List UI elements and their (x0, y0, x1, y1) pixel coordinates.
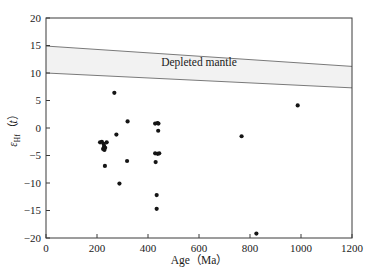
y-tick-label: −20 (24, 232, 42, 244)
data-point (239, 134, 243, 138)
x-tick-label: 1200 (341, 242, 364, 254)
svg-text:εHf（t）: εHf（t） (7, 109, 22, 147)
data-point (103, 164, 107, 168)
y-axis-paren-close: ） (7, 109, 19, 120)
x-tick-label: 400 (140, 242, 157, 254)
data-point (126, 119, 130, 123)
y-tick-label: 15 (30, 39, 42, 51)
data-point (157, 151, 161, 155)
x-tick-label: 600 (191, 242, 208, 254)
x-axis-title: Age（Ma） (171, 254, 228, 267)
data-point (155, 207, 159, 211)
y-tick-label: 5 (36, 94, 42, 106)
y-tick-label: 0 (36, 122, 42, 134)
data-point (117, 181, 121, 185)
x-tick-label: 800 (242, 242, 259, 254)
data-point (105, 140, 109, 144)
x-tick-label: 1000 (290, 242, 313, 254)
y-axis-paren-open: （ (7, 123, 19, 134)
data-point (254, 232, 258, 236)
depleted-mantle-label: Depleted mantle (161, 56, 237, 69)
data-point (125, 159, 129, 163)
y-tick-label: −15 (24, 204, 42, 216)
data-point (156, 129, 160, 133)
epsilon-hf-vs-age-scatter-plot: Depleted mantle 020040060080010001200 −2… (0, 0, 370, 278)
data-point (155, 193, 159, 197)
y-tick-label: −10 (24, 177, 42, 189)
y-tick-label: −5 (29, 149, 41, 161)
y-tick-label: 20 (30, 12, 42, 24)
data-point (296, 103, 300, 107)
y-axis-title: εHf（t） (7, 109, 22, 147)
x-tick-label: 0 (43, 242, 49, 254)
x-tick-label: 200 (89, 242, 106, 254)
y-tick-label: 10 (30, 67, 42, 79)
data-point (114, 133, 118, 137)
data-point (112, 91, 116, 95)
data-point (154, 160, 158, 164)
data-point (156, 122, 160, 126)
chart-figure: Depleted mantle 020040060080010001200 −2… (0, 0, 370, 278)
data-point (103, 146, 107, 150)
